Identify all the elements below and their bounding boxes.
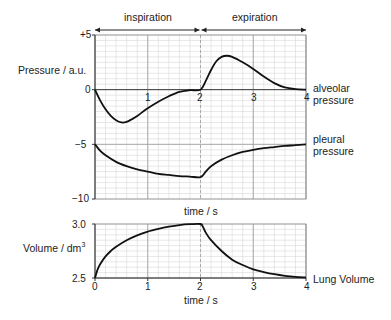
chart-canvas — [0, 0, 391, 320]
time-axis-label-upper: time / s — [184, 205, 218, 217]
xtick-lower-4: 4 — [304, 281, 310, 292]
time-axis-label-lower: time / s — [184, 294, 218, 306]
ytick-minus10: −10 — [72, 193, 89, 204]
expiration-label: expiration — [232, 11, 278, 23]
xtick-upper-3: 3 — [251, 92, 257, 103]
ytick-vol-25: 2.5 — [72, 273, 86, 284]
volume-axis-text: Volume / dm — [23, 242, 81, 254]
alveolar-label-line2: pressure — [313, 94, 354, 106]
xtick-lower-3: 3 — [251, 281, 257, 292]
xtick-upper-2: 2 — [197, 92, 203, 103]
pleural-label-line2: pressure — [313, 145, 354, 157]
pressure-axis-label: Pressure / a.u. — [18, 64, 86, 76]
pleural-label-line1: pleural — [313, 133, 345, 145]
xtick-upper-1: 1 — [145, 92, 151, 103]
xtick-lower-2: 2 — [197, 281, 203, 292]
ytick-zero: 0 — [85, 84, 91, 95]
xtick-lower-1: 1 — [145, 281, 151, 292]
volume-axis-sup: 3 — [81, 241, 85, 248]
ytick-vol-3: 3.0 — [72, 219, 86, 230]
ytick-minus5: −5 — [75, 139, 86, 150]
xtick-upper-4: 4 — [304, 92, 310, 103]
lung-volume-label: Lung Volume — [313, 273, 374, 285]
alveolar-label-line1: alveolar — [313, 82, 350, 94]
ytick-plus5: +5 — [80, 29, 91, 40]
xtick-lower-0: 0 — [92, 281, 98, 292]
inspiration-label: inspiration — [124, 11, 172, 23]
volume-axis-label: Volume / dm3 — [23, 239, 85, 254]
